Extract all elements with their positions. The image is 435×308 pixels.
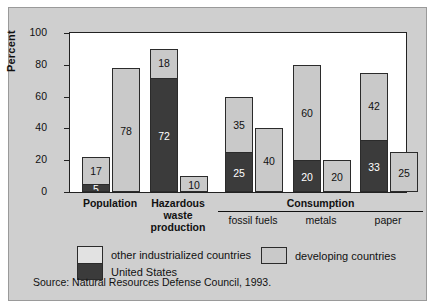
source-note: Source: Natural Resources Defense Counci… xyxy=(33,276,271,288)
y-tick-mark xyxy=(64,192,69,193)
y-tick-mark xyxy=(64,128,69,129)
category-label-line: paper xyxy=(338,214,435,226)
bar-value-label: 35 xyxy=(233,120,245,131)
y-tick-100: 100 xyxy=(9,33,69,34)
bar-segment-other-industrialized-countries: 17 xyxy=(83,158,109,185)
y-tick-40: 40 xyxy=(9,128,69,129)
y-tick-label: 100 xyxy=(29,26,47,38)
y-tick-mark xyxy=(64,97,69,98)
category-label-consumption: Consumption xyxy=(271,197,371,209)
bar-segment-other-industrialized-countries: 18 xyxy=(151,50,177,79)
y-tick-20: 20 xyxy=(9,160,69,161)
bar-value-label: 25 xyxy=(233,168,245,179)
bar-value-label: 60 xyxy=(301,108,313,119)
legend-swatch-stacked xyxy=(77,246,103,280)
bar-value-label: 40 xyxy=(263,156,275,167)
consumption-group-rule xyxy=(218,211,423,212)
legend-swatch-other-industrialized xyxy=(78,247,102,264)
y-tick-label: 20 xyxy=(35,153,47,165)
bar-fossil-fuels-developing: 40 xyxy=(255,128,283,192)
bar-value-label: 25 xyxy=(398,168,410,179)
category-label-line: Consumption xyxy=(271,197,371,209)
legend-item-industrialized-stack: other industrialized countries United St… xyxy=(77,246,251,280)
y-tick-60: 60 xyxy=(9,97,69,98)
y-tick-0: 0 xyxy=(9,192,69,193)
bar-paper-industrialized-stack: 4233 xyxy=(360,73,388,192)
chart-panel: 17578187210352540602020423325 Percent 02… xyxy=(8,7,427,301)
y-tick-80: 80 xyxy=(9,65,69,66)
bar-value-label: 5 xyxy=(93,184,99,192)
bar-segment-developing-countries: 25 xyxy=(391,153,417,192)
bar-segment-developing-countries: 40 xyxy=(256,129,282,192)
category-label-paper: paper xyxy=(338,214,435,226)
bar-segment-other-industrialized-countries: 35 xyxy=(226,98,252,154)
y-tick-label: 80 xyxy=(35,58,47,70)
bar-segment-united-states: 25 xyxy=(226,153,252,192)
y-tick-label: 0 xyxy=(41,185,47,197)
bar-value-label: 10 xyxy=(188,180,200,191)
bar-value-label: 20 xyxy=(301,172,313,183)
bar-value-label: 78 xyxy=(120,126,132,137)
y-tick-mark xyxy=(64,65,69,66)
bar-segment-united-states: 72 xyxy=(151,79,177,192)
bar-metals-industrialized-stack: 6020 xyxy=(293,65,321,192)
legend-label-other-industrialized: other industrialized countries xyxy=(111,249,251,261)
y-tick-mark xyxy=(64,33,69,34)
bar-value-label: 72 xyxy=(158,131,170,142)
category-label-line: Hazardous xyxy=(128,197,228,209)
bar-metals-developing: 20 xyxy=(323,160,351,192)
bar-segment-united-states: 33 xyxy=(361,141,387,192)
bar-value-label: 33 xyxy=(368,162,380,173)
bar-hazardous-waste-production-industrialized-stack: 1872 xyxy=(150,49,178,192)
bar-segment-united-states: 5 xyxy=(83,185,109,192)
bar-value-label: 42 xyxy=(368,101,380,112)
plot-area: 17578187210352540602020423325 xyxy=(69,32,407,193)
y-tick-label: 40 xyxy=(35,121,47,133)
bar-segment-other-industrialized-countries: 42 xyxy=(361,74,387,141)
bar-value-label: 17 xyxy=(90,166,102,177)
bar-segment-developing-countries: 78 xyxy=(113,69,139,192)
bar-value-label: 18 xyxy=(158,58,170,69)
legend-item-developing: developing countries xyxy=(261,247,396,264)
legend-label-developing-countries: developing countries xyxy=(295,250,396,262)
y-tick-mark xyxy=(64,160,69,161)
figure-root: 17578187210352540602020423325 Percent 02… xyxy=(0,0,435,308)
bar-segment-other-industrialized-countries: 60 xyxy=(294,66,320,161)
plot-inner: 17578187210352540602020423325 xyxy=(70,33,406,192)
y-tick-label: 60 xyxy=(35,90,47,102)
bar-hazardous-waste-production-developing: 10 xyxy=(180,176,208,192)
bar-value-label: 20 xyxy=(331,172,343,183)
legend-swatch-developing-countries xyxy=(261,247,287,264)
bar-segment-developing-countries: 20 xyxy=(324,161,350,192)
bar-fossil-fuels-industrialized-stack: 3525 xyxy=(225,97,253,192)
bar-segment-developing-countries: 10 xyxy=(181,177,207,192)
bar-segment-united-states: 20 xyxy=(294,161,320,192)
bar-paper-developing: 25 xyxy=(390,152,418,192)
bar-population-developing: 78 xyxy=(112,68,140,192)
bar-population-industrialized-stack: 175 xyxy=(82,157,110,192)
